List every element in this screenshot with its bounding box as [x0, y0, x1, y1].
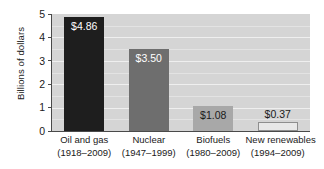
bar[interactable]: $0.37	[258, 122, 298, 131]
category-name: Nuclear	[117, 134, 182, 147]
y-axis-ticks: 543210	[0, 0, 52, 169]
y-tick-label: 0	[39, 126, 48, 137]
bar-value-label: $4.86	[64, 21, 104, 32]
bar-chart: Billions of dollars 543210 $4.86$3.50$1.…	[0, 0, 324, 169]
x-axis-labels: Oil and gas(1918–2009)Nuclear(1947–1999)…	[52, 134, 310, 169]
y-tick-label: 3	[39, 56, 48, 67]
category-period: (1994–2009)	[246, 147, 311, 160]
x-axis-line	[51, 131, 310, 132]
bar[interactable]: $4.86	[64, 17, 104, 131]
bar-value-label: $1.08	[193, 110, 233, 121]
bar[interactable]: $3.50	[129, 49, 169, 131]
category-name: Oil and gas	[52, 134, 117, 147]
x-axis-category-label: Biofuels(1980–2009)	[181, 134, 246, 159]
plot-area: $4.86$3.50$1.08$0.37	[52, 14, 310, 131]
category-period: (1947–1999)	[117, 147, 182, 160]
y-tick-label: 1	[39, 102, 48, 113]
category-period: (1918–2009)	[52, 147, 117, 160]
category-period: (1980–2009)	[181, 147, 246, 160]
category-name: New renewables	[246, 134, 311, 147]
category-name: Biofuels	[181, 134, 246, 147]
x-axis-category-label: New renewables(1994–2009)	[246, 134, 311, 159]
x-axis-category-label: Nuclear(1947–1999)	[117, 134, 182, 159]
x-axis-category-label: Oil and gas(1918–2009)	[52, 134, 117, 159]
y-tick-label: 5	[39, 9, 48, 20]
bar-value-label: $3.50	[129, 53, 169, 64]
y-tick-label: 4	[39, 32, 48, 43]
y-tick-label: 2	[39, 79, 48, 90]
bar[interactable]: $1.08	[193, 106, 233, 131]
bar-value-label: $0.37	[259, 109, 297, 120]
